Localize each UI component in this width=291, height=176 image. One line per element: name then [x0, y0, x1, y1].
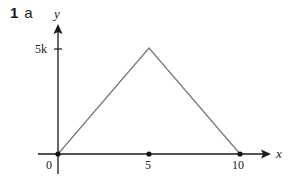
x-axis-label: x — [275, 146, 282, 161]
x-tick-label-0: 0 — [46, 158, 52, 172]
point-10 — [237, 151, 242, 156]
triangle-graph: 0 5 10 5k x y — [0, 0, 291, 176]
graph-line — [58, 48, 240, 154]
y-tick-label-5k: 5k — [35, 42, 47, 56]
y-axis-label: y — [52, 6, 60, 21]
point-5 — [146, 151, 151, 156]
point-origin — [55, 151, 60, 156]
x-tick-label-5: 5 — [145, 158, 151, 172]
x-tick-label-10: 10 — [232, 158, 244, 172]
